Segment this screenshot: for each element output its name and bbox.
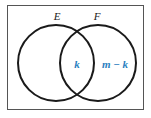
set-f-label: F	[93, 10, 101, 22]
venn-diagram: E F k m − k	[0, 0, 151, 118]
set-e-label: E	[53, 10, 61, 22]
f-only-label: m − k	[102, 58, 129, 70]
intersection-label: k	[74, 58, 80, 70]
